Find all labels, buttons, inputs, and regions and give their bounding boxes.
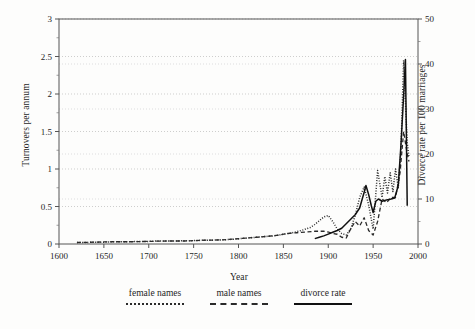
svg-text:0: 0 xyxy=(425,239,430,249)
svg-text:1650: 1650 xyxy=(95,251,114,261)
svg-text:1: 1 xyxy=(48,164,53,174)
svg-text:1700: 1700 xyxy=(140,251,159,261)
legend-swatch-dotted-line-icon xyxy=(126,303,184,310)
series-line-male-names xyxy=(77,132,409,243)
legend-label-female-names: female names xyxy=(129,288,182,298)
x-axis-ticks: 160016501700175018001850190019502000 xyxy=(50,244,428,261)
y-axis-right-ticks: 01020304050 xyxy=(418,14,435,249)
svg-text:1.5: 1.5 xyxy=(41,127,53,137)
chart-figure: Turnovers per annum Divorce rate per 100… xyxy=(0,0,475,329)
svg-text:0: 0 xyxy=(48,239,53,249)
data-series-layer xyxy=(77,60,409,243)
svg-text:30: 30 xyxy=(425,104,435,114)
svg-text:2: 2 xyxy=(48,89,53,99)
legend-swatch-solid-line-icon xyxy=(294,303,352,310)
legend-item-female-names: female names xyxy=(126,288,184,310)
svg-text:1600: 1600 xyxy=(50,251,69,261)
y-axis-left-ticks: 00.511.522.53 xyxy=(41,14,59,249)
svg-text:20: 20 xyxy=(425,149,435,159)
svg-text:10: 10 xyxy=(425,194,435,204)
plot-canvas: 00.511.522.53 01020304050 16001650170017… xyxy=(0,0,475,329)
series-line-divorce-rate xyxy=(315,60,407,239)
legend-label-divorce-rate: divorce rate xyxy=(300,288,345,298)
svg-text:2000: 2000 xyxy=(409,251,428,261)
legend-label-male-names: male names xyxy=(216,288,261,298)
chart-legend: female names male names divorce rate xyxy=(59,288,419,310)
svg-text:40: 40 xyxy=(425,59,435,69)
legend-item-male-names: male names xyxy=(210,288,268,310)
svg-text:1950: 1950 xyxy=(364,251,383,261)
svg-text:1750: 1750 xyxy=(185,251,204,261)
svg-text:50: 50 xyxy=(425,14,435,24)
svg-text:0.5: 0.5 xyxy=(41,202,53,212)
series-line-female-names xyxy=(77,60,409,242)
svg-text:1800: 1800 xyxy=(230,251,249,261)
legend-item-divorce-rate: divorce rate xyxy=(294,288,352,310)
gridlines xyxy=(59,19,418,207)
legend-swatch-dashed-line-icon xyxy=(210,303,268,310)
svg-text:1900: 1900 xyxy=(319,251,338,261)
plot-frame xyxy=(59,19,418,244)
svg-text:2.5: 2.5 xyxy=(41,52,53,62)
svg-text:1850: 1850 xyxy=(274,251,293,261)
svg-text:3: 3 xyxy=(48,14,53,24)
